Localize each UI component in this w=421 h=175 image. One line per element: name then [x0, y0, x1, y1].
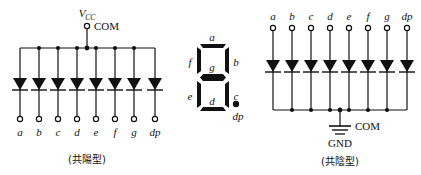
right-terminal-circle-dp	[404, 25, 409, 30]
segment-label-g: g	[209, 61, 215, 73]
left-diode-triangle-d	[70, 78, 84, 90]
segment-label-c: c	[234, 90, 239, 102]
right-terminal-label-a: a	[270, 10, 276, 22]
right-diode-triangle-b	[285, 60, 299, 72]
right-diode-triangle-a	[266, 60, 280, 72]
left-terminal-circle-d	[74, 116, 79, 121]
segment-label-b: b	[233, 56, 239, 68]
left-terminal-label-d: d	[74, 126, 80, 138]
vcc-terminal-circle	[84, 23, 89, 28]
right-terminal-circle-a	[270, 25, 275, 30]
right-branch-a: a	[265, 10, 281, 110]
left-terminal-circle-f	[112, 116, 117, 121]
left-branch-d: d	[69, 46, 85, 138]
segment-d	[200, 107, 226, 111]
segment-label-a: a	[209, 31, 215, 43]
right-circuit-caption: (共陰型)	[321, 155, 359, 167]
left-terminal-label-g: g	[131, 126, 137, 138]
left-terminal-circle-dp	[152, 116, 157, 121]
left-diode-triangle-c	[51, 78, 65, 90]
segment-g	[200, 74, 226, 81]
right-terminal-circle-e	[346, 25, 351, 30]
segment-label-e: e	[188, 90, 193, 102]
right-terminal-label-f: f	[366, 10, 371, 22]
left-terminal-label-c: c	[56, 126, 61, 138]
left-terminal-label-dp: dp	[150, 126, 162, 138]
segment-b	[225, 47, 229, 74]
left-terminal-label-f: f	[113, 126, 118, 138]
right-terminal-label-e: e	[347, 10, 352, 22]
right-branch-b: b	[284, 10, 300, 112]
decimal-point-dot	[233, 101, 239, 107]
right-terminal-label-c: c	[309, 10, 314, 22]
left-branch-g: g	[126, 46, 142, 138]
right-branch-c: c	[303, 10, 319, 112]
left-diode-triangle-b	[32, 78, 46, 90]
seven-segment-display: a f b g e c d dp	[188, 31, 244, 122]
left-terminal-label-e: e	[94, 126, 99, 138]
segment-c	[225, 81, 229, 108]
right-branch-dp: dp	[399, 10, 415, 110]
segment-f	[197, 47, 201, 74]
left-terminal-label-b: b	[36, 126, 42, 138]
left-diode-triangle-dp	[148, 78, 162, 90]
right-diode-triangle-c	[304, 60, 318, 72]
left-diode-triangle-e	[89, 78, 103, 90]
left-branch-b: b	[31, 46, 47, 138]
left-terminal-circle-c	[55, 116, 60, 121]
right-diode-triangle-d	[323, 60, 337, 72]
right-branch-e: e	[341, 10, 357, 112]
left-diode-triangle-g	[127, 78, 141, 90]
right-terminal-circle-f	[365, 25, 370, 30]
left-circuit-caption: (共陽型)	[68, 153, 106, 165]
right-diode-triangle-e	[342, 60, 356, 72]
right-terminal-circle-g	[384, 25, 389, 30]
segment-label-d: d	[209, 95, 215, 107]
right-terminal-label-dp: dp	[402, 10, 414, 22]
segment-e	[197, 81, 201, 108]
right-circuit-common-cathode: a b c d	[265, 10, 415, 167]
right-diode-triangle-f	[361, 60, 375, 72]
left-diode-triangle-a	[13, 78, 27, 90]
left-branch-f: f	[107, 46, 123, 138]
right-terminal-label-g: g	[384, 10, 390, 22]
left-com-label: COM	[94, 20, 119, 32]
right-branch-f: f	[360, 10, 376, 112]
right-diode-triangle-g	[380, 60, 394, 72]
right-terminal-circle-d	[327, 25, 332, 30]
left-terminal-circle-e	[93, 116, 98, 121]
left-diode-triangle-f	[108, 78, 122, 90]
right-terminal-label-d: d	[327, 10, 333, 22]
left-circuit-common-anode: VCC COM a b	[12, 7, 163, 165]
left-terminal-circle-b	[36, 116, 41, 121]
right-com-label: COM	[355, 120, 380, 132]
right-diode-triangle-dp	[400, 60, 414, 72]
left-vcc-junction-dot	[85, 46, 90, 51]
right-terminal-label-b: b	[289, 10, 295, 22]
right-terminal-circle-b	[289, 25, 294, 30]
led-display-wiring-figure: VCC COM a b	[0, 0, 421, 175]
left-terminal-circle-a	[17, 116, 22, 121]
right-branch-d: d	[322, 10, 338, 112]
right-branch-g: g	[379, 10, 395, 112]
left-branch-dp: dp	[147, 48, 163, 138]
decimal-point-label: dp	[233, 110, 245, 122]
left-branch-c: c	[50, 46, 66, 138]
left-branch-e: e	[88, 46, 104, 138]
right-terminal-circle-c	[308, 25, 313, 30]
left-branch-a: a	[12, 48, 28, 138]
segment-a	[200, 44, 226, 48]
left-terminal-label-a: a	[17, 126, 23, 138]
gnd-label: GND	[328, 137, 352, 149]
segment-label-f: f	[188, 56, 193, 68]
left-terminal-circle-g	[131, 116, 136, 121]
